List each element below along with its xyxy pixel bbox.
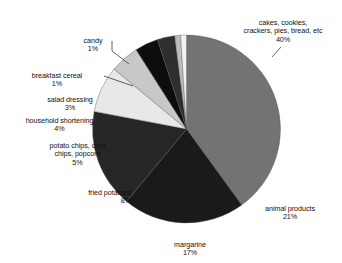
slice-label-fried-potatoes: fried potatoes 8% (34, 180, 131, 214)
slice-label-animal-products: animal products 21% (245, 196, 335, 230)
slice-label-household-shortening-pct: 4% (8, 125, 111, 134)
slice-label-breakfast-cereal: breakfast cereal 1% (13, 63, 101, 97)
slice-label-cakes: cakes, cookies, crackers, pies, bread, e… (227, 10, 339, 53)
slice-label-candy-pct: 1% (68, 45, 118, 54)
pie-chart-figure: cakes, cookies, crackers, pies, bread, e… (0, 0, 342, 263)
slice-label-breakfast-cereal-pct: 1% (13, 80, 101, 89)
slice-label-animal-products-pct: 21% (245, 213, 335, 222)
slice-label-cakes-pct: 40% (227, 36, 339, 45)
slice-label-margarine: margarine 17% (135, 232, 245, 263)
slice-label-salad-dressing-pct: 3% (29, 104, 111, 113)
slice-label-fried-potatoes-pct: 8% (34, 197, 131, 206)
slice-label-potato-chips-pct: 5% (24, 159, 131, 168)
slice-label-cakes-name: cakes, cookies, crackers, pies, bread, e… (244, 18, 323, 36)
slice-label-potato-chips-name: potato chips, corn chips, popcorn (50, 141, 106, 159)
slice-label-margarine-pct: 17% (135, 249, 245, 258)
slice-label-candy: candy 1% (68, 28, 118, 62)
